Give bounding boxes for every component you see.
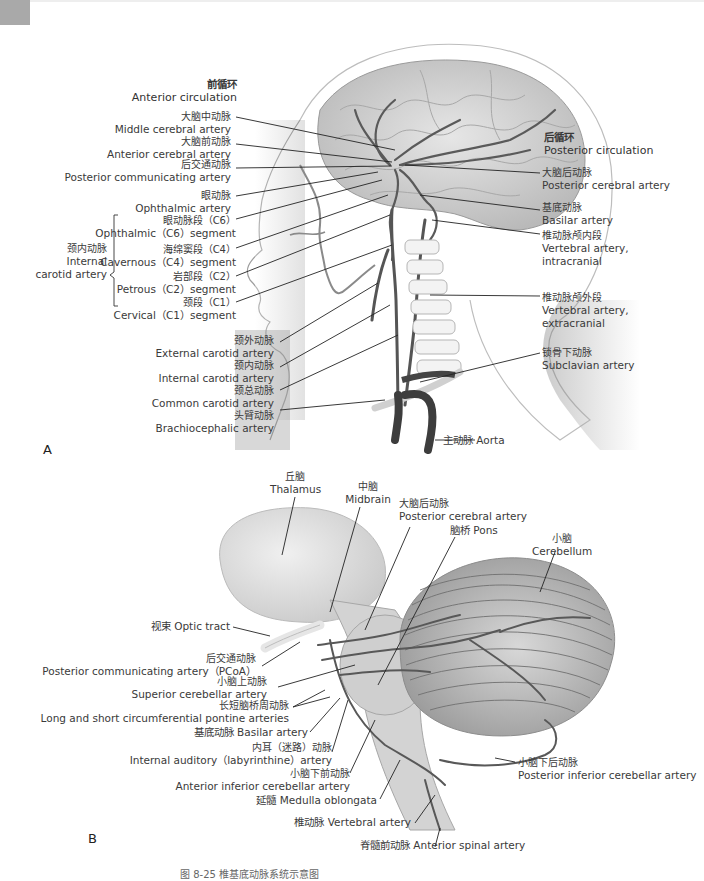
label-zh: 大脑后动脉 [542, 166, 670, 179]
label-internal-carotid-group: 颈内动脉 Internal carotid artery [32, 242, 107, 281]
label-zh: 椎动脉颅外段 [542, 291, 629, 304]
panel-a-letter: A [43, 442, 52, 457]
panel-b-letter: B [88, 831, 97, 846]
label-optic-tract: 视束 Optic tract [151, 620, 230, 633]
label-zh: 颈段（C1） [114, 296, 236, 309]
label-en: Petrous（C2）segment [117, 283, 236, 296]
label-en: Internal carotid artery [32, 255, 107, 281]
label-zh: 大脑中动脉 [115, 110, 231, 123]
label-anterior-spinal-artery: 脊髓前动脉 Anterior spinal artery [360, 839, 525, 852]
label-pb-posterior-cerebral-artery: 大脑后动脉 Posterior cerebral artery [399, 497, 527, 523]
label-zh: 颈外动脉 [155, 334, 274, 347]
label-zh: 海绵窦段（C4） [100, 243, 236, 256]
label-petrous-c2-segment: 岩部段（C2） Petrous（C2）segment [117, 270, 236, 296]
label-medulla-oblongata: 延髓 Medulla oblongata [256, 794, 377, 807]
label-en: Brachiocephalic artery [155, 422, 274, 435]
anterior-circulation-header: 前循环 Anterior circulation [132, 78, 237, 104]
label-en: Cavernous（C4）segment [100, 256, 236, 269]
label-zh: 基底动脉 [542, 201, 613, 214]
label-cervical-c1-segment: 颈段（C1） Cervical（C1）segment [114, 296, 236, 322]
label-zh: 小脑下前动脉 [176, 767, 350, 780]
label-zh: 眼动脉 [135, 189, 231, 202]
label-aica: 小脑下前动脉 Anterior inferior cerebellar arte… [176, 767, 350, 793]
label-zh: 头臂动脉 [155, 409, 274, 422]
label-zh: 丘脑 [270, 470, 320, 483]
label-zh: 后交通动脉 [42, 652, 256, 665]
label-en: Internal auditory（labyrinthine）artery [130, 754, 332, 767]
label-en: Posterior inferior cerebellar artery [518, 769, 696, 782]
label-zh: 颈总动脉 [152, 384, 274, 397]
label-ophthalmic-artery: 眼动脉 Ophthalmic artery [135, 189, 231, 215]
label-posterior-cerebral-artery: 大脑后动脉 Posterior cerebral artery [542, 166, 670, 192]
label-zh: 眼动脉段（C6） [95, 214, 236, 227]
label-midbrain: 中脑 Midbrain [345, 480, 391, 506]
label-en: Posterior cerebral artery [542, 179, 670, 192]
label-external-carotid-artery: 颈外动脉 External carotid artery [155, 334, 274, 360]
label-zh: 锁骨下动脉 [542, 346, 635, 359]
label-en2: intracranial [542, 255, 629, 268]
label-labyrinthine-artery: 内耳（迷路）动脉 Internal auditory（labyrinthine）… [130, 741, 332, 767]
label-internal-carotid-artery: 颈内动脉 Internal carotid artery [159, 359, 274, 385]
posterior-circulation-header: 后循环 Posterior circulation [544, 131, 653, 157]
label-vertebral-intracranial: 椎动脉颅内段 Vertebral artery, intracranial [542, 229, 629, 268]
anterior-circulation-en: Anterior circulation [132, 91, 237, 104]
label-common-carotid-artery: 颈总动脉 Common carotid artery [152, 384, 274, 410]
label-zh: 小脑 [532, 532, 592, 545]
label-pb-basilar-artery: 基底动脉 Basilar artery [194, 726, 308, 739]
label-zh: 小脑下后动脉 [518, 756, 696, 769]
label-zh: 颈内动脉 [32, 242, 107, 255]
label-vertebral-extracranial: 椎动脉颅外段 Vertebral artery, extracranial [542, 291, 629, 330]
posterior-circulation-zh: 后循环 [544, 131, 653, 144]
label-aorta: 主动脉 Aorta [443, 434, 505, 447]
label-zh: 大脑前动脉 [107, 135, 231, 148]
label-zh: 后交通动脉 [65, 158, 231, 171]
label-middle-cerebral-artery: 大脑中动脉 Middle cerebral artery [115, 110, 231, 136]
label-subclavian-artery: 锁骨下动脉 Subclavian artery [542, 346, 635, 372]
posterior-circulation-en: Posterior circulation [544, 144, 653, 157]
label-en: Cervical（C1）segment [114, 309, 236, 322]
label-zh: 颈内动脉 [159, 359, 274, 372]
label-en: Ophthalmic（C6）segment [95, 227, 236, 240]
label-en: Cerebellum [532, 545, 592, 558]
label-pons: 脑桥 Pons [450, 524, 498, 537]
label-basilar-artery: 基底动脉 Basilar artery [542, 201, 613, 227]
label-pontine-arteries: 长短脑桥周动脉 Long and short circumferential p… [41, 699, 289, 725]
figure-caption: 图 8-25 椎基底动脉系统示意图 [180, 866, 319, 881]
label-cavernous-c4-segment: 海绵窦段（C4） Cavernous（C4）segment [100, 243, 236, 269]
label-zh: 长短脑桥周动脉 [41, 699, 289, 712]
label-en: Long and short circumferential pontine a… [41, 712, 289, 725]
label-en2: extracranial [542, 317, 629, 330]
anterior-circulation-zh: 前循环 [132, 78, 237, 91]
label-en: Subclavian artery [542, 359, 635, 372]
label-zh: 小脑上动脉 [132, 675, 267, 688]
label-zh: 岩部段（C2） [117, 270, 236, 283]
label-en: Vertebral artery, [542, 304, 629, 317]
label-superior-cerebellar-artery: 小脑上动脉 Superior cerebellar artery [132, 675, 267, 701]
label-posterior-communicating-artery: 后交通动脉 Posterior communicating artery [65, 158, 231, 184]
label-en: Basilar artery [542, 214, 613, 227]
label-thalamus: 丘脑 Thalamus [270, 470, 320, 496]
label-en: Vertebral artery, [542, 242, 629, 255]
label-en: Posterior communicating artery [65, 171, 231, 184]
label-brachiocephalic-artery: 头臂动脉 Brachiocephalic artery [155, 409, 274, 435]
label-cerebellum: 小脑 Cerebellum [532, 532, 592, 558]
label-pica: 小脑下后动脉 Posterior inferior cerebellar art… [518, 756, 696, 782]
label-en: Thalamus [270, 483, 320, 496]
label-zh: 中脑 [345, 480, 391, 493]
label-zh: 椎动脉颅内段 [542, 229, 629, 242]
label-pb-vertebral-artery: 椎动脉 Vertebral artery [294, 816, 411, 829]
label-zh: 大脑后动脉 [399, 497, 527, 510]
label-en: Posterior cerebral artery [399, 510, 527, 523]
label-en: Midbrain [345, 493, 391, 506]
label-ophthalmic-c6-segment: 眼动脉段（C6） Ophthalmic（C6）segment [95, 214, 236, 240]
label-en: Anterior inferior cerebellar artery [176, 780, 350, 793]
label-zh: 内耳（迷路）动脉 [130, 741, 332, 754]
